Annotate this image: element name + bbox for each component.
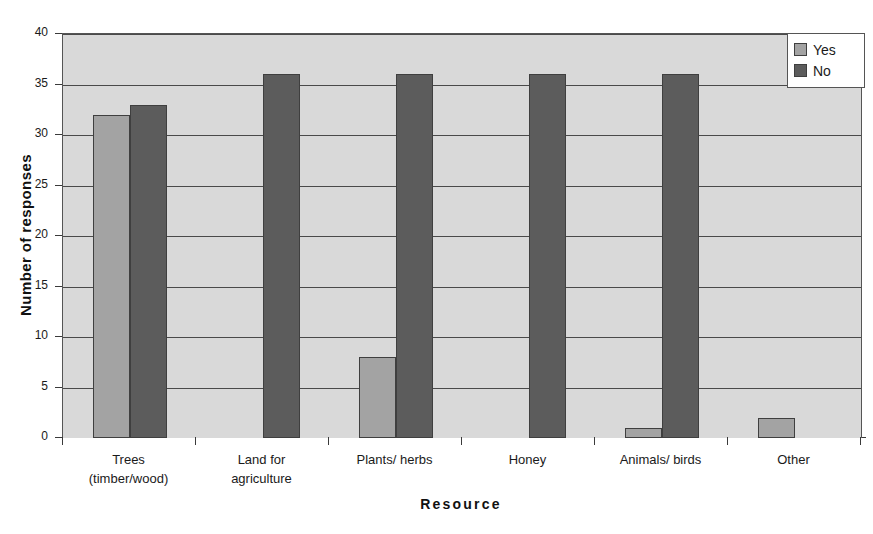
legend-swatch-icon [794,64,807,77]
x-axis-tick [328,437,329,445]
y-axis-tick-label: 40 [0,25,48,39]
y-axis-tick-label: 5 [0,379,48,393]
bar-no [263,74,300,438]
bar-yes [758,418,795,438]
legend-item-label: Yes [813,43,836,57]
bar-no [130,105,167,438]
bar-yes [359,357,396,438]
y-axis-tick-label: 30 [0,126,48,140]
gridline [63,135,861,136]
gridline [63,186,861,187]
plot-inner [63,34,861,438]
x-axis-tick [727,437,728,445]
x-axis-title: Resource [62,496,860,512]
legend-item-label: No [813,64,831,78]
x-axis-tick [62,437,63,445]
y-axis-tick-label: 0 [0,429,48,443]
y-axis-tick-label: 20 [0,227,48,241]
y-axis-tick-label: 35 [0,76,48,90]
y-axis-tick-label: 25 [0,177,48,191]
x-axis-tick [594,437,595,445]
legend-item-no: No [794,60,858,81]
plot-area [62,33,862,438]
bar-no [396,74,433,438]
legend-swatch-icon [794,43,807,56]
x-axis-category-label-line: agriculture [182,469,342,488]
x-axis-category-label: Other [714,450,873,469]
gridline [63,337,861,338]
gridline [63,34,861,35]
x-axis-tick [461,437,462,445]
chart-legend: YesNo [787,33,865,88]
legend-item-yes: Yes [794,39,858,60]
bar-no [662,74,699,438]
bar-no [529,74,566,438]
x-axis-tick [860,437,861,445]
bar-yes [625,428,662,438]
chart-figure: Number of responses 0510152025303540 Tre… [0,0,873,534]
gridline [63,236,861,237]
bar-yes [93,115,130,438]
gridline [63,85,861,86]
gridline [63,287,861,288]
x-axis-tick [195,437,196,445]
y-axis-tick-label: 10 [0,328,48,342]
x-axis-category-label-line: Other [714,450,873,469]
gridline [63,388,861,389]
y-axis-tick-label: 15 [0,278,48,292]
